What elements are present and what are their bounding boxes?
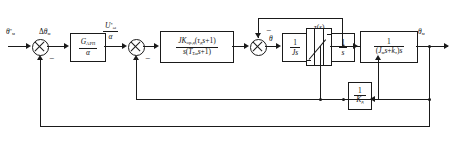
wire-omega-tap-down [320, 46, 321, 99]
arrow-sum2-to-speed-regulator [154, 43, 159, 49]
block-stiffness-feedback[interactable]: 1Kд [348, 82, 372, 110]
arrow-output [444, 43, 449, 49]
wire-input-to-sum1 [8, 46, 27, 47]
sum-2-minus-sign: − [145, 54, 150, 63]
saturation-lower-limit [307, 60, 311, 61]
wire-fb-kd-in [370, 99, 429, 100]
output-signal-label: θм [418, 28, 425, 37]
wire-regulator-to-sum2 [104, 46, 123, 47]
wire-fb-kd-up [136, 60, 137, 99]
arrow-fb-outer-to-sum1 [37, 55, 43, 60]
wire-fb-outer-up [40, 60, 41, 126]
sum-3-minus-sign: − [266, 26, 271, 35]
wire-sum1-to-regulator [47, 46, 65, 47]
wire-fb-sum4-h [342, 99, 378, 100]
arrow-regulator-to-sum2 [122, 43, 127, 49]
saturation-upper-limit [327, 34, 331, 35]
block-speed-regulator[interactable]: JKор.д(τдs+1) s(TΣиs+1) [160, 31, 234, 63]
wire-fb-kd-down [429, 46, 430, 99]
block-diagram-canvas: θ*м Δθм U*ω α ω θ τ(s) θм − GАРП α [0, 0, 454, 142]
error-signal-label: Δθм [39, 28, 50, 37]
arrow-input-to-sum1 [26, 43, 31, 49]
wire-fb-sum4-up [378, 60, 379, 99]
block-inertia-integrator[interactable]: 1 Js [282, 33, 308, 62]
wire-omega-to-sum4-path [320, 99, 342, 100]
arrow-saturation-to-plant [353, 43, 358, 49]
arrow-speed-regulator-to-sum3 [244, 43, 249, 49]
block-position-regulator[interactable]: GАРП α [70, 33, 106, 62]
saturation-axis-right [323, 29, 324, 65]
arrow-sum3-to-inertia [276, 43, 281, 49]
arrow-fb-top-to-sum3 [255, 33, 261, 38]
arrow-sum1-to-regulator [64, 43, 69, 49]
wire-fb-top-up [342, 18, 343, 46]
wire-fb-outer-bottom [40, 126, 430, 127]
sum-1-minus-sign: − [49, 54, 54, 63]
block-saturation-limiter[interactable] [306, 28, 332, 66]
input-signal-label: θ*м [6, 28, 15, 37]
arrow-fb-kd-to-sum2 [133, 55, 139, 60]
wire-fb-top-h [258, 18, 343, 19]
wire-fb-kd-out [136, 99, 348, 100]
sum-2 [128, 39, 145, 56]
saturation-axis-left [314, 29, 315, 65]
block-mechanical-plant[interactable]: 1(Jмs+kт)s [360, 31, 418, 63]
arrow-fb-to-sum4 [375, 55, 381, 60]
theta-signal-label: θ [269, 35, 273, 43]
sum-3 [250, 39, 267, 56]
sum-1 [32, 39, 49, 56]
